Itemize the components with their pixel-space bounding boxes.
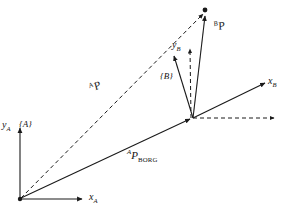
x-axis-b-line: [193, 83, 265, 118]
y-axis-b-label-subscript: B: [177, 45, 181, 52]
vector-ap-borg-label: APBORG: [127, 150, 157, 161]
x-axis-b-label: xB: [268, 76, 277, 86]
x-axis-a-label: xA: [89, 192, 98, 202]
diagram-canvas: [0, 0, 286, 215]
vector-frame-diagram: yA {A} xA xB yB {B} AP BP APBORG: [0, 0, 286, 215]
point-p-dot: [203, 8, 208, 13]
frame-b-label: {B}: [160, 72, 173, 81]
x-axis-b-label-subscript: B: [273, 81, 277, 88]
origin-a-dot: [18, 197, 22, 201]
vector-bp-line: [193, 16, 205, 118]
vector-ap-borg-line: [21, 119, 190, 198]
frame-a-label: {A}: [19, 120, 32, 129]
y-axis-a-label: yA: [2, 120, 11, 130]
vector-bp-label: BP: [213, 20, 226, 33]
vector-ap-borg-label-subscript: BORG: [138, 156, 157, 163]
y-axis-a-label-subscript: A: [7, 125, 11, 132]
x-axis-a-label-subscript: A: [94, 197, 98, 204]
y-axis-b-label: yB: [172, 40, 181, 50]
